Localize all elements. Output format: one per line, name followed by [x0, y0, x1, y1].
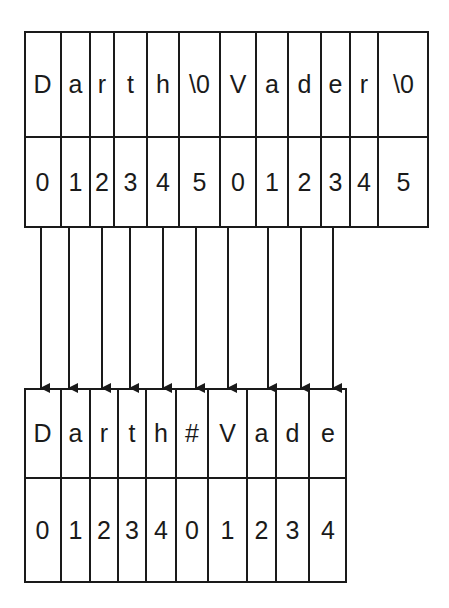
dest-index-cell: 4 [146, 478, 176, 583]
dest-char-cell: r [90, 388, 118, 478]
dest-char-cell: e [309, 388, 347, 478]
dest-char-cell: h [146, 388, 176, 478]
dest-char-cell: d [276, 388, 309, 478]
dest-index-cell: 3 [118, 478, 146, 583]
dest-index-cell: 3 [276, 478, 309, 583]
dest-index-cell: 2 [90, 478, 118, 583]
dest-index-cell: 1 [61, 478, 90, 583]
dest-char-cell: D [24, 388, 61, 478]
dest-index-cell: 2 [247, 478, 276, 583]
dest-char-cell: V [208, 388, 247, 478]
dest-char-cell: a [61, 388, 90, 478]
dest-index-cell: 0 [24, 478, 61, 583]
dest-index-cell: 4 [309, 478, 347, 583]
dest-index-cell: 1 [208, 478, 247, 583]
dest-char-cell: t [118, 388, 146, 478]
dest-index-cell: 0 [176, 478, 208, 583]
dest-char-cell: a [247, 388, 276, 478]
dest-char-cell: # [176, 388, 208, 478]
